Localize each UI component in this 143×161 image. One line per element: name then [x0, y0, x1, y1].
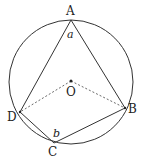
inscribed-quadrilateral-diagram: A O B C D a b	[0, 0, 143, 161]
label-C: C	[48, 145, 57, 159]
label-D: D	[7, 110, 17, 124]
segment-BC	[54, 108, 125, 143]
label-A: A	[65, 4, 75, 18]
segment-AB	[71, 20, 125, 108]
point-D-dot	[19, 111, 21, 113]
angle-label-a: a	[67, 28, 74, 41]
point-B-dot	[124, 107, 126, 109]
segment-OD	[20, 81, 71, 112]
label-B: B	[128, 102, 137, 116]
center-point	[70, 80, 73, 83]
label-O: O	[66, 85, 76, 99]
segment-AD	[20, 20, 71, 112]
angle-label-b: b	[53, 127, 60, 140]
segment-CD	[20, 112, 54, 143]
